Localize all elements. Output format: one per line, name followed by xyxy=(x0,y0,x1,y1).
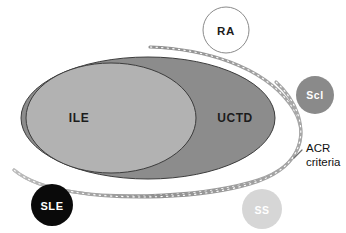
node-ss: SS xyxy=(242,189,282,229)
ile-label: ILE xyxy=(69,111,89,125)
acr-criteria-line1: ACR xyxy=(306,142,330,154)
venn-diagram-figure: ILE UCTD RA Scl SLE SS ACR criteria xyxy=(0,0,346,233)
acr-criteria-line2: criteria xyxy=(306,156,341,168)
ra-label: RA xyxy=(217,25,235,37)
uctd-label: UCTD xyxy=(217,111,253,125)
sle-label: SLE xyxy=(40,200,63,212)
ss-label: SS xyxy=(254,204,269,216)
acr-criteria-annotation: ACR criteria xyxy=(306,142,341,168)
scl-label: Scl xyxy=(306,89,324,101)
venn-diagram-canvas: ILE UCTD RA Scl SLE SS ACR criteria xyxy=(0,0,346,233)
node-scl: Scl xyxy=(296,76,334,114)
ile-ellipse xyxy=(26,63,196,173)
node-ra: RA xyxy=(203,7,249,53)
node-sle: SLE xyxy=(31,184,73,226)
